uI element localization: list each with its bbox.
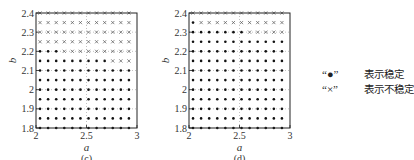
stable-point	[208, 117, 211, 120]
stable-point	[273, 88, 276, 91]
stable-point	[248, 88, 251, 91]
stable-point	[192, 40, 195, 43]
stable-point	[103, 88, 106, 91]
y-axis-label: b	[159, 57, 171, 63]
stable-point	[240, 69, 243, 72]
stable-point	[232, 69, 235, 72]
stable-point	[111, 117, 114, 120]
stable-point	[232, 79, 235, 82]
legend-label-stable: 表示稳定	[364, 67, 404, 82]
stable-point	[256, 88, 259, 91]
unstable-point	[71, 31, 74, 34]
stable-point	[216, 88, 219, 91]
unstable-point	[240, 21, 243, 24]
stable-point	[264, 40, 267, 43]
x-tick-label: 3	[135, 130, 140, 141]
stable-point	[200, 79, 203, 82]
stable-point	[256, 69, 259, 72]
stable-point	[240, 60, 243, 63]
unstable-point	[256, 21, 259, 24]
stable-point	[55, 60, 58, 63]
stable-point	[79, 69, 82, 72]
stable-point	[55, 108, 58, 111]
unstable-point	[200, 21, 203, 24]
stable-point	[248, 50, 251, 53]
stable-point	[192, 79, 195, 82]
unstable-point	[47, 31, 50, 34]
stable-point	[192, 31, 195, 34]
stable-point	[63, 79, 66, 82]
stable-point	[248, 79, 251, 82]
stable-point	[248, 98, 251, 101]
stable-point	[55, 50, 58, 53]
unstable-point	[79, 40, 82, 43]
stable-point	[71, 98, 74, 101]
stable-point	[208, 88, 211, 91]
stable-point	[281, 50, 284, 53]
unstable-point	[119, 40, 122, 43]
stable-point	[103, 117, 106, 120]
stable-point	[192, 98, 195, 101]
stable-marker-symbol: “●”	[322, 67, 364, 82]
stable-point	[208, 108, 211, 111]
stable-point	[240, 108, 243, 111]
stable-point	[111, 108, 114, 111]
unstable-point	[71, 40, 74, 43]
stable-point	[232, 60, 235, 63]
stable-point	[264, 117, 267, 120]
stable-point	[240, 50, 243, 53]
unstable-point	[280, 21, 283, 24]
stable-point	[216, 98, 219, 101]
unstable-point	[111, 21, 114, 24]
x-tick-label: 3	[288, 130, 293, 141]
unstable-point	[63, 40, 66, 43]
stable-point	[63, 88, 66, 91]
y-tick-label: 2.1	[175, 65, 188, 76]
stable-point	[111, 79, 114, 82]
stable-point	[39, 60, 42, 63]
unstable-point	[264, 21, 267, 24]
stable-point	[232, 40, 235, 43]
stable-point	[192, 69, 195, 72]
stable-point	[87, 108, 90, 111]
unstable-point	[71, 50, 74, 53]
stable-point	[224, 88, 227, 91]
stable-point	[200, 69, 203, 72]
stable-point	[264, 60, 267, 63]
unstable-point	[55, 40, 58, 43]
stable-point	[87, 79, 90, 82]
stable-point	[216, 108, 219, 111]
unstable-point	[103, 21, 106, 24]
unstable-point	[71, 21, 74, 24]
stable-point	[200, 108, 203, 111]
y-axis-label: b	[6, 57, 18, 63]
stable-point	[111, 69, 114, 72]
unstable-point	[119, 31, 122, 34]
stable-point	[192, 117, 195, 120]
y-tick-label: 2.4	[22, 8, 35, 19]
stable-point	[264, 108, 267, 111]
stable-point	[224, 108, 227, 111]
unstable-point	[79, 21, 82, 24]
stable-point	[128, 98, 131, 101]
stable-point	[47, 69, 50, 72]
stable-point	[120, 79, 123, 82]
stable-point	[256, 98, 259, 101]
unstable-point	[119, 50, 122, 53]
unstable-point	[272, 31, 275, 34]
unstable-point	[95, 40, 98, 43]
stable-point	[273, 60, 276, 63]
stable-point	[216, 40, 219, 43]
unstable-point	[119, 21, 122, 24]
y-tick-label: 2	[182, 84, 187, 95]
stable-point	[95, 60, 98, 63]
y-tick-label: 2	[29, 84, 34, 95]
stable-point	[264, 98, 267, 101]
stable-point	[240, 117, 243, 120]
stable-point	[71, 60, 74, 63]
y-tick-label: 1.8	[22, 123, 35, 134]
stable-point	[240, 88, 243, 91]
stable-point	[47, 98, 50, 101]
stable-point	[128, 79, 131, 82]
unstable-point	[208, 21, 211, 24]
